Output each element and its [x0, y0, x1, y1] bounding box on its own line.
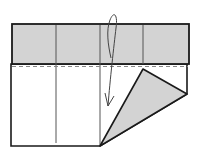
origami-diagram: [0, 0, 199, 156]
